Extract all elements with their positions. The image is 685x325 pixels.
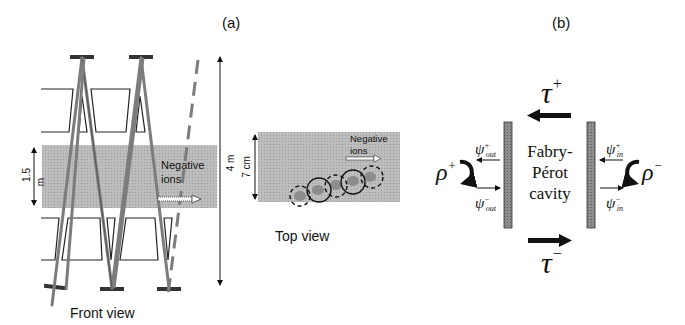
top-ions-label-line2: ions xyxy=(350,145,368,156)
top-view-caption: Top view xyxy=(275,228,330,244)
height-dimension: 4 m xyxy=(220,57,236,285)
top-ions-label-line1: Negative xyxy=(350,133,388,144)
front-view: 1.5 m Negative ions Front view xyxy=(21,55,217,321)
cavity-label-line2: Pérot xyxy=(532,163,568,182)
top-electrodes xyxy=(41,89,145,132)
figure-canvas: (a) xyxy=(0,0,685,325)
psi-out-minus-label: ψ−out xyxy=(475,195,497,213)
dimension-1-5-label: 1.5 xyxy=(21,168,32,182)
tau-plus-arrow xyxy=(527,109,571,122)
panel-b: (b) τ+ Fabry- Pérot cavity ψ+out ψ−out ψ… xyxy=(435,14,662,279)
top-view: 7 cm Negative ions Top xyxy=(241,132,400,244)
cavity-mirror-right xyxy=(587,122,595,228)
panel-a: (a) xyxy=(21,14,400,321)
rho-plus-curved-arrow xyxy=(460,162,472,183)
panel-b-label: (b) xyxy=(552,14,570,31)
tau-plus-symbol: τ+ xyxy=(541,75,563,109)
psi-in-plus-label: ψ+in xyxy=(606,141,623,159)
panel-a-label: (a) xyxy=(222,14,240,31)
cavity-label-line1: Fabry- xyxy=(527,142,573,161)
psi-out-plus-label: ψ+out xyxy=(475,141,497,159)
tau-minus-symbol: τ− xyxy=(541,245,563,279)
rho-minus-symbol: ρ− xyxy=(641,158,662,185)
front-ions-label-line2: ions xyxy=(161,173,182,185)
dimension-4m-label: 4 m xyxy=(225,155,236,172)
rho-plus-symbol: ρ+ xyxy=(435,158,456,185)
dimension-7cm-label: 7 cm xyxy=(241,156,252,178)
cavity-mirror-left xyxy=(504,122,512,228)
front-ions-label-line1: Negative xyxy=(161,159,204,171)
front-view-caption: Front view xyxy=(70,305,135,321)
psi-in-minus-label: ψ−in xyxy=(606,195,623,213)
rho-minus-curved-arrow xyxy=(627,162,639,183)
dimension-1-5-unit: m xyxy=(35,178,46,186)
cavity-label-line3: cavity xyxy=(529,184,571,203)
